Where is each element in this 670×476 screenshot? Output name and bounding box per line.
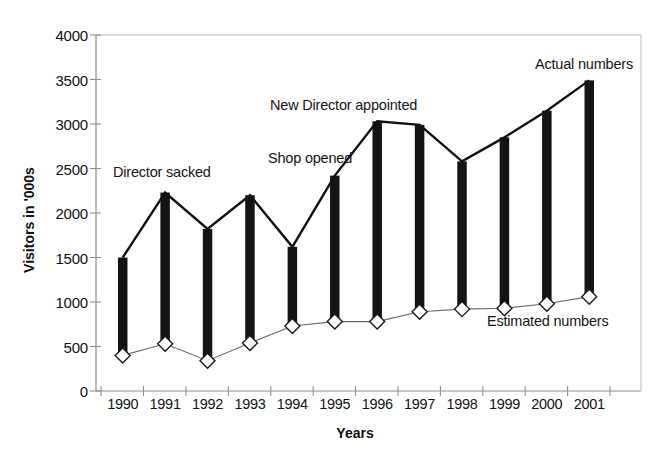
annotation-shop-opened: Shop opened (268, 150, 352, 166)
estimated-marker (370, 314, 385, 329)
estimated-marker (582, 289, 597, 304)
estimated-marker (455, 302, 470, 317)
bar (372, 121, 382, 321)
bar (330, 176, 340, 322)
y-axis-tick-label: 3000 (36, 116, 88, 133)
annotation-estimated-numbers: Estimated numbers (487, 313, 609, 329)
estimated-marker (242, 335, 257, 350)
estimated-marker (539, 296, 554, 311)
y-axis-tick-label: 1500 (36, 249, 88, 266)
bar (500, 137, 510, 308)
y-axis-tick-label: 2500 (36, 160, 88, 177)
bar (585, 80, 595, 296)
estimated-marker (285, 319, 300, 334)
estimated-marker (115, 348, 130, 363)
bar (118, 258, 128, 356)
estimated-marker (327, 314, 342, 329)
x-axis-tick-labels: 1990199119921993199419951996199719981999… (0, 396, 670, 418)
bar (457, 161, 467, 309)
bar (160, 193, 170, 344)
annotation-actual-numbers: Actual numbers (535, 56, 633, 72)
x-axis-title: Years (0, 425, 670, 441)
estimated-marker (158, 336, 173, 351)
y-axis-tick-label: 4000 (36, 27, 88, 44)
estimated-marker (412, 304, 427, 319)
bar (288, 247, 298, 326)
bar (245, 195, 255, 343)
annotation-director-sacked: Director sacked (113, 164, 211, 180)
chart-figure: Visitors in '000s 0500100015002000250030… (0, 0, 670, 476)
bar (203, 229, 213, 361)
estimated-marker (200, 353, 215, 368)
y-axis-tick-label: 3500 (36, 71, 88, 88)
x-axis-tick-label: 2001 (562, 396, 616, 412)
bar (415, 125, 425, 312)
y-axis-tick-label: 2000 (36, 205, 88, 222)
bar (542, 111, 552, 304)
y-axis-tick-label: 500 (36, 338, 88, 355)
annotation-new-director-appointed: New Director appointed (270, 97, 417, 113)
y-axis-tick-label: 1000 (36, 294, 88, 311)
